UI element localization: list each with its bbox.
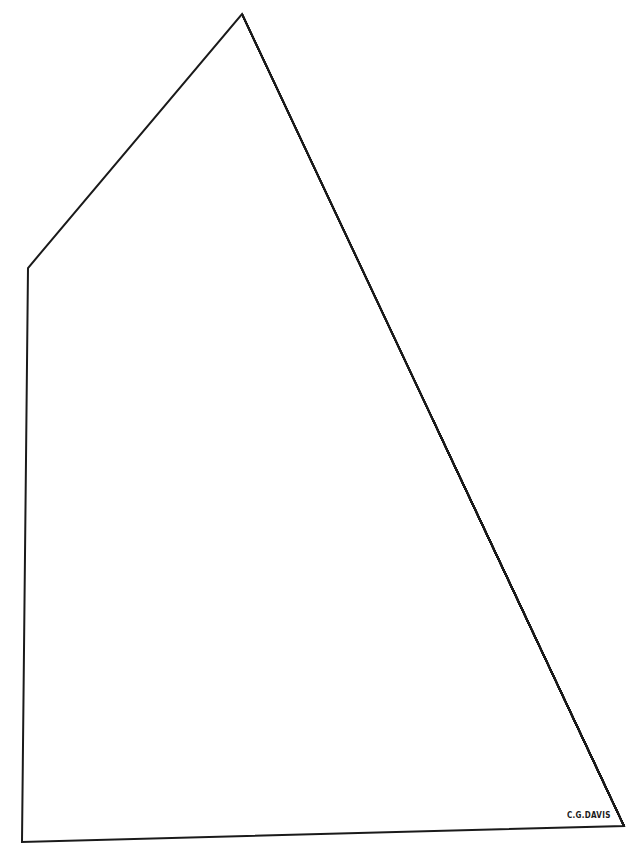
sail-outline [22, 14, 624, 842]
sail-illustration [0, 0, 634, 864]
artist-signature: C.G.DAVIS [567, 811, 611, 820]
sail-drawing: C.G.DAVIS [0, 0, 634, 864]
